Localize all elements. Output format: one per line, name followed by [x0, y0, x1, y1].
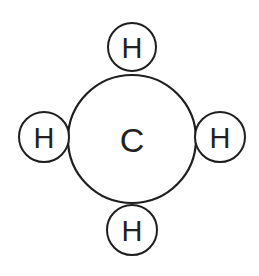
hydrogen-atom-right: H: [195, 112, 245, 162]
hydrogen-atom-left: H: [19, 112, 69, 162]
hydrogen-atom-bottom: H: [107, 205, 157, 255]
hydrogen-label: H: [210, 122, 231, 154]
hydrogen-label: H: [122, 32, 143, 64]
hydrogen-atom-top: H: [108, 23, 156, 71]
carbon-label: C: [120, 121, 145, 159]
hydrogen-label: H: [34, 122, 55, 154]
hydrogen-label: H: [122, 215, 143, 247]
methane-diagram: C H H H H: [0, 0, 259, 276]
carbon-atom: C: [68, 75, 196, 203]
